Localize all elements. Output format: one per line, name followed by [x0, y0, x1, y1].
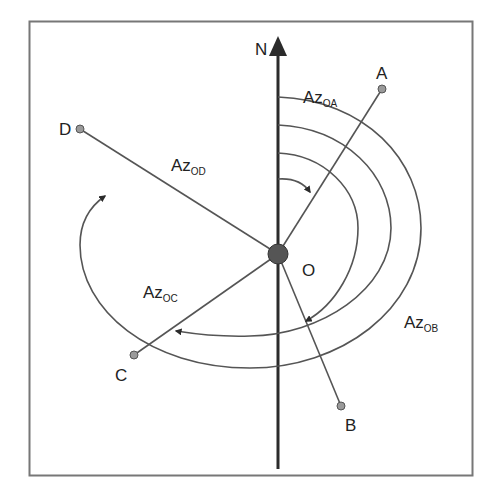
point-B-marker	[337, 402, 345, 410]
point-B-label: B	[345, 416, 356, 435]
point-A-label: A	[376, 64, 388, 83]
azimuth-label-OB: AzOB	[404, 313, 439, 334]
north-label: N	[255, 40, 267, 59]
arc-azimuth-OB	[278, 153, 358, 321]
origin-marker	[268, 244, 288, 264]
point-D-label: D	[59, 120, 71, 139]
azimuth-label-OD: AzOD	[171, 156, 206, 177]
azimuth-diagram: N O A B C D AzOA AzOB AzOC AzOD	[0, 0, 496, 498]
diagram-frame	[30, 22, 473, 476]
ray-OC	[134, 254, 278, 355]
origin-label: O	[302, 261, 315, 280]
ray-OD	[80, 129, 278, 254]
arc-azimuth-OD	[80, 97, 421, 368]
point-D-marker	[76, 125, 84, 133]
azimuth-label-OC: AzOC	[143, 283, 178, 304]
point-A-marker	[378, 85, 386, 93]
point-C-label: C	[115, 366, 127, 385]
azimuth-label-OA: AzOA	[303, 88, 338, 109]
point-C-marker	[130, 351, 138, 359]
arc-azimuth-OA	[278, 179, 310, 192]
north-arrow-icon	[269, 36, 287, 56]
